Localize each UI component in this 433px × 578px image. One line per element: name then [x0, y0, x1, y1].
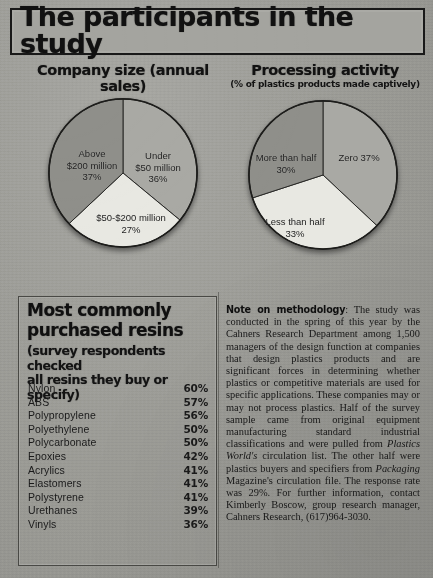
chart-title-processing-activity: Processing activity	[226, 62, 424, 78]
resin-value: 50%	[183, 436, 208, 450]
resin-name: Polyethylene	[28, 423, 89, 437]
resin-row: Elastomers41%	[28, 477, 208, 491]
note-divider	[218, 292, 219, 568]
resin-row: Polypropylene56%	[28, 409, 208, 423]
methodology-note-part3: Magazine's circulation file. The respons…	[226, 475, 420, 523]
resin-value: 60%	[183, 382, 208, 396]
infographic-page: The participants in the study Company si…	[0, 0, 433, 578]
resin-name: Urethanes	[28, 504, 77, 518]
resins-subheading-line1: (survey respondents checked	[27, 343, 165, 373]
methodology-note-lead: Note on methodology	[226, 304, 345, 315]
resin-row: Acrylics41%	[28, 464, 208, 478]
chart-title-company-size: Company size (annual sales)	[22, 62, 224, 94]
slice-label-above-200-million: Above$200 million37%	[52, 148, 132, 183]
methodology-note-part1: The study was conducted in the spring of…	[226, 304, 420, 449]
methodology-note-italic-packaging: Packaging	[376, 463, 420, 474]
resin-row: Vinyls36%	[28, 518, 208, 532]
resin-name: Nylon	[28, 382, 55, 396]
resin-row: Epoxies42%	[28, 450, 208, 464]
resin-row: ABS57%	[28, 396, 208, 410]
slice-label-50-200-million: $50-$200 million27%	[76, 212, 186, 235]
slice-label-zero: Zero 37%	[322, 152, 396, 164]
resin-name: ABS	[28, 396, 49, 410]
chart-subtitle-processing-activity: (% of plastics products made captively)	[226, 79, 424, 89]
slice-label-less-than-half: Less than half33%	[250, 216, 340, 239]
resin-value: 39%	[183, 504, 208, 518]
resins-panel: Most commonly purchased resins (survey r…	[18, 296, 217, 566]
resin-value: 41%	[183, 491, 208, 505]
resins-list: Nylon60%ABS57%Polypropylene56%Polyethyle…	[28, 382, 208, 532]
resin-name: Polycarbonate	[28, 436, 96, 450]
resin-name: Vinyls	[28, 518, 56, 532]
page-title: The participants in the study	[20, 10, 420, 50]
resin-row: Polycarbonate50%	[28, 436, 208, 450]
resins-heading-line1: Most commonly	[27, 300, 171, 320]
resin-row: Polystyrene41%	[28, 491, 208, 505]
resin-row: Nylon60%	[28, 382, 208, 396]
methodology-note-body: Note on methodology: The study was condu…	[226, 304, 420, 524]
resin-name: Polypropylene	[28, 409, 96, 423]
resin-row: Urethanes39%	[28, 504, 208, 518]
resin-value: 57%	[183, 396, 208, 410]
resin-row: Polyethylene50%	[28, 423, 208, 437]
resin-value: 50%	[183, 423, 208, 437]
resin-name: Polystyrene	[28, 491, 84, 505]
resin-name: Acrylics	[28, 464, 65, 478]
resin-value: 36%	[183, 518, 208, 532]
resins-heading: Most commonly purchased resins	[27, 301, 211, 340]
resins-heading-line2: purchased resins	[27, 320, 183, 340]
resin-value: 41%	[183, 477, 208, 491]
methodology-note: Note on methodology: The study was condu…	[222, 296, 422, 564]
methodology-note-separator: :	[345, 304, 353, 315]
resin-name: Epoxies	[28, 450, 66, 464]
resin-name: Elastomers	[28, 477, 82, 491]
resin-value: 56%	[183, 409, 208, 423]
resin-value: 41%	[183, 464, 208, 478]
resin-value: 42%	[183, 450, 208, 464]
slice-label-more-than-half: More than half30%	[241, 152, 331, 175]
